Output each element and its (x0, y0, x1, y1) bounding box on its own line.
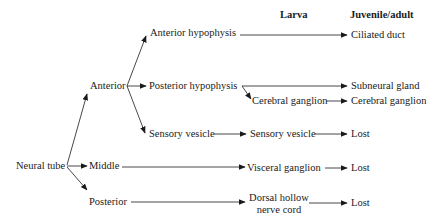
node-sensory-vesicle-larva: Sensory vesicle (250, 128, 316, 140)
node-neural-tube: Neural tube (16, 160, 65, 172)
arrow-anterior-to-sensory-vesicle (127, 86, 145, 133)
node-posterior-hypophysis: Posterior hypophysis (149, 80, 237, 92)
node-posterior: Posterior (89, 196, 127, 208)
node-lost-sensory: Lost (351, 128, 370, 140)
header-larva: Larva (280, 9, 307, 21)
node-sensory-vesicle: Sensory vesicle (149, 128, 215, 140)
dorsal-hollow-line1: Dorsal hollow (246, 192, 312, 204)
node-dorsal-hollow-nerve-cord: Dorsal hollow nerve cord (246, 192, 312, 213)
arrow-neural-to-posterior (67, 167, 87, 190)
node-cerebral-ganglion-adult: Cerebral ganglion (351, 95, 427, 107)
node-lost-dorsal: Lost (351, 197, 370, 209)
arrow-anterior-to-anterior-hypophysis (127, 36, 146, 86)
node-lost-visceral: Lost (351, 162, 370, 174)
header-juvenile-adult: Juvenile/adult (350, 9, 414, 21)
arrow-to-cerebral-ganglion-larva (242, 86, 251, 99)
node-middle: Middle (89, 160, 119, 172)
dorsal-hollow-line2: nerve cord (246, 204, 312, 213)
node-visceral-ganglion: Visceral ganglion (247, 162, 321, 174)
node-anterior: Anterior (90, 80, 126, 92)
node-ciliated-duct: Ciliated duct (351, 29, 405, 41)
arrow-neural-to-anterior (67, 94, 87, 165)
node-subneural-gland: Subneural gland (351, 80, 420, 92)
node-anterior-hypophysis: Anterior hypophysis (150, 27, 236, 39)
node-cerebral-ganglion-larva: Cerebral ganglion (252, 95, 328, 107)
